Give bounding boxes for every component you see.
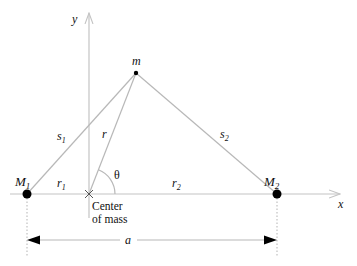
theta-arc xyxy=(98,170,115,194)
mass-m-label: m xyxy=(132,54,141,68)
x-axis-label: x xyxy=(337,197,344,211)
dimension-a-label: a xyxy=(125,233,131,247)
dimension-arrow-left-icon xyxy=(27,236,40,245)
s1-label: s1 xyxy=(57,129,66,145)
center-of-mass-label-line1: Center xyxy=(92,200,123,212)
r1-label: r1 xyxy=(57,176,66,192)
r-line xyxy=(89,73,136,194)
dimension-arrow-right-icon xyxy=(264,236,277,245)
s2-line xyxy=(136,73,277,194)
mass-m2-label: M2 xyxy=(263,174,280,191)
mass-m-dot xyxy=(134,71,138,75)
theta-label: θ xyxy=(114,168,120,182)
r2-label: r2 xyxy=(172,176,181,192)
center-of-mass-label-line2: of mass xyxy=(92,213,128,225)
s2-label: s2 xyxy=(220,127,229,143)
mass-m1-label: M1 xyxy=(14,174,30,191)
two-body-diagram: y x m M1 M2 s1 s2 r r1 r2 θ Center of ma… xyxy=(0,0,357,266)
y-axis-label: y xyxy=(71,12,78,26)
r-label: r xyxy=(102,127,107,141)
